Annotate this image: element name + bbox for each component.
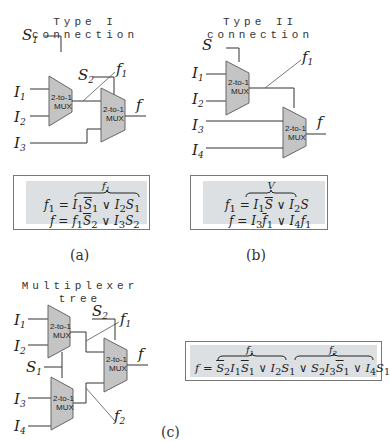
label-f1: f1: [119, 310, 131, 329]
label-s2: S2: [92, 302, 108, 321]
label-i2: I2: [13, 337, 26, 356]
label-i4: I4: [191, 141, 204, 160]
panel-c-circuit: I1 I2 2-to-1 MUX S1 I3 I4 2-to-1 MUX f1 …: [13, 302, 148, 436]
svg-text:2-to-1: 2-to-1: [228, 78, 249, 87]
formula-box-a: f1 f1 = I1S1 ∨ I2S1 f = f1S2 ∨ I3S2: [13, 175, 150, 230]
panel-b-circuit: S I1 I2 2-to-1 MUX f1 2-to-1 MUX f I3 I4: [191, 36, 326, 160]
equation-a-1: f1 = I1S1 ∨ I2S1: [44, 198, 140, 214]
formula-box-b: V f1 = I1S ∨ I2S f = I3f1 ∨ I4f1: [190, 175, 328, 230]
panel-a-circuit: S1 I1 I2 2-to-1 MUX f1 S2 2-to-1 MUX f I…: [13, 26, 146, 153]
svg-text:2-to-1: 2-to-1: [285, 124, 306, 133]
svg-text:MUX: MUX: [56, 403, 74, 412]
svg-text:2-to-1: 2-to-1: [106, 355, 127, 364]
svg-text:MUX: MUX: [53, 331, 71, 340]
brace-icon: [294, 353, 374, 361]
label-f1: f1: [115, 60, 127, 79]
brace-icon: [245, 190, 297, 198]
label-s1: S1: [22, 26, 38, 45]
label-i4: I4: [13, 417, 26, 436]
caption-c: (c): [161, 424, 180, 440]
label-f: f: [316, 113, 325, 131]
svg-text:MUX: MUX: [106, 114, 124, 123]
label-i3: I3: [13, 390, 26, 409]
svg-text:2-to-1: 2-to-1: [50, 322, 71, 331]
formula-box-c: f1 f2 f = S2I1S1 ∨ I2S1 ∨ S2I3S1 ∨ I4S1: [185, 341, 382, 381]
svg-text:2-to-1: 2-to-1: [51, 93, 72, 102]
label-s1: S1: [26, 358, 42, 377]
label-i1: I1: [191, 64, 204, 83]
brace-icon: [74, 190, 140, 198]
label-i2: I2: [191, 90, 204, 109]
svg-text:MUX: MUX: [231, 87, 249, 96]
brace-icon: [217, 353, 287, 361]
label-f: f: [137, 345, 146, 363]
equation-c: f = S2I1S1 ∨ I2S1 ∨ S2I3S1 ∨ I4S1: [195, 361, 390, 377]
label-i3: I3: [191, 116, 204, 135]
equation-a-2: f = f1S2 ∨ I3S2: [50, 214, 140, 230]
label-i2: I2: [13, 108, 26, 127]
svg-text:MUX: MUX: [109, 364, 127, 373]
label-f2: f2: [113, 407, 126, 426]
label-s: S: [202, 36, 212, 54]
equation-b-2: f = I3f1 ∨ I4f1: [229, 214, 311, 230]
label-i3: I3: [13, 134, 26, 153]
label-s2: S2: [78, 66, 94, 85]
caption-a: (a): [70, 247, 89, 263]
label-f: f: [135, 96, 144, 114]
svg-text:MUX: MUX: [54, 102, 72, 111]
equation-b-1: f1 = I1S ∨ I2S: [225, 198, 309, 214]
svg-text:2-to-1: 2-to-1: [103, 105, 124, 114]
svg-text:2-to-1: 2-to-1: [53, 394, 74, 403]
label-i1: I1: [13, 311, 26, 330]
label-f1: f1: [301, 48, 313, 67]
caption-b: (b): [246, 247, 266, 263]
label-i1: I1: [13, 83, 26, 102]
svg-text:MUX: MUX: [288, 133, 306, 142]
